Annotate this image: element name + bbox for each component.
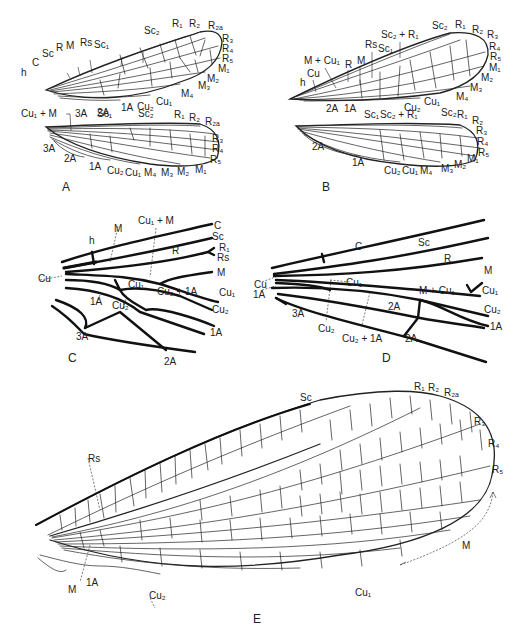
label-Sc1-hind-b: Sc₁ bbox=[364, 109, 380, 120]
label-R2-hind: R₂ bbox=[189, 112, 200, 123]
label-Cu1-hind: Cu₁ bbox=[125, 167, 142, 178]
label-M1-hind-b: M₁ bbox=[467, 153, 479, 164]
label-Cu-c: Cu bbox=[38, 273, 51, 284]
label-1A-inner-c: 1A bbox=[90, 296, 103, 307]
label-M2-b: M₂ bbox=[481, 72, 493, 83]
label-C-c: C bbox=[214, 220, 221, 231]
label-R5-b: R₅ bbox=[490, 51, 501, 62]
label-Cu1-right-d: Cu₁ bbox=[482, 285, 499, 296]
label-Sc: Sc bbox=[42, 48, 54, 59]
label-R-c: R bbox=[172, 245, 179, 256]
label-C-d: C bbox=[355, 241, 362, 252]
label-Cu1-right-c: Cu₁ bbox=[219, 287, 236, 298]
label-M-plus-Cu1-d: M + Cu₁ bbox=[419, 285, 456, 296]
label-2A-c: 2A bbox=[164, 356, 177, 367]
panel-a-forewing-labels: h C Sc R M Rs Sc₁ Sc₂ R₁ R₂ R₂ₐ R₃ R₄ R₅… bbox=[21, 18, 233, 118]
label-Cu2-hind-b: Cu₂ bbox=[384, 165, 401, 176]
label-Cu1: Cu₁ bbox=[156, 96, 173, 107]
label-M-b: M bbox=[357, 55, 365, 66]
label-Cu-b: Cu bbox=[307, 68, 320, 79]
panel-b-letter: B bbox=[322, 180, 330, 194]
label-Sc1: Sc₁ bbox=[94, 39, 110, 50]
label-Sc2-plus-R1-hind-b: Sc₂ + R₁ bbox=[380, 109, 418, 120]
label-Rs-c: Rs bbox=[217, 252, 229, 263]
label-M1: M₁ bbox=[218, 63, 230, 74]
panel-c: h M Cu₁ + M C Sc R₁ Rs R M Cu Cu₁ Cu₂ + … bbox=[38, 215, 236, 367]
panel-a-letter: A bbox=[62, 180, 70, 194]
label-M: M bbox=[66, 40, 74, 51]
label-M3-hind: M₃ bbox=[161, 167, 173, 178]
label-Cu2-right-c: Cu₂ bbox=[212, 304, 229, 315]
label-Sc2-plus-R1-b: Sc₂ + R₁ bbox=[381, 29, 419, 40]
label-h-c: h bbox=[89, 235, 95, 246]
label-Rs: Rs bbox=[80, 37, 92, 48]
label-M1-hind: M₁ bbox=[195, 164, 207, 175]
label-M4: M₄ bbox=[181, 88, 193, 99]
label-2A-bottom-d: 2A bbox=[405, 333, 418, 344]
label-2A-inner-d: 2A bbox=[388, 301, 401, 312]
panel-d: C Sc R M Cu Cu₁ M + Cu₁ Cu₁ 1A 3A 2A Cu₂… bbox=[253, 220, 503, 365]
label-2A-hind: 2A bbox=[64, 153, 77, 164]
label-R4-hind: R₄ bbox=[212, 143, 223, 154]
label-Cu2-bottom-d: Cu₂ bbox=[318, 323, 335, 334]
label-Sc1-hind: Sc₁ bbox=[97, 108, 113, 119]
label-3A-c: 3A bbox=[76, 331, 89, 342]
label-M-plus-Cu1-b: M + Cu₁ bbox=[304, 55, 341, 66]
label-M-c: M bbox=[114, 223, 122, 234]
label-M4-hind-b: M₄ bbox=[420, 165, 432, 176]
label-R: R bbox=[56, 42, 63, 53]
label-1A-hind: 1A bbox=[89, 161, 102, 172]
label-3A-d: 3A bbox=[292, 308, 305, 319]
panel-c-letter: C bbox=[68, 351, 77, 365]
label-R4-hind-b: R₄ bbox=[477, 136, 488, 147]
label-Cu1-hind-b: Cu₁ bbox=[402, 165, 419, 176]
panel-d-letter: D bbox=[382, 351, 391, 365]
label-2A-b: 2A bbox=[326, 103, 339, 114]
panel-a-hindwing-labels: Cu₁ + M 3A Sc₁ Sc₂ R₁ R₂ R₂ₐ R₃ R₄ R₅ 3A… bbox=[21, 108, 223, 178]
panel-d-labels: C Sc R M Cu Cu₁ M + Cu₁ Cu₁ 1A 3A 2A Cu₂… bbox=[253, 237, 503, 344]
label-R5-hind-b: R₅ bbox=[478, 147, 489, 158]
panel-a: h C Sc R M Rs Sc₁ Sc₂ R₁ R₂ R₂ₐ R₃ R₄ R₅… bbox=[21, 18, 233, 194]
panel-b: h Cu M + Cu₁ R M Rs Sc₁ Sc₂ + R₁ Sc₂ R₁ … bbox=[290, 19, 501, 194]
label-Cu2-e: Cu₂ bbox=[149, 590, 166, 601]
label-R-b: R bbox=[345, 59, 352, 70]
label-1A-b: 1A bbox=[344, 103, 357, 114]
label-h: h bbox=[21, 67, 27, 78]
wing-venation-figure: h C Sc R M Rs Sc₁ Sc₂ R₁ R₂ R₂ₐ R₃ R₄ R₅… bbox=[0, 0, 519, 636]
label-R1-b: R₁ bbox=[455, 19, 466, 30]
label-R1-e: R₁ bbox=[414, 381, 425, 392]
label-Cu1-inner-c: Cu₁ bbox=[128, 279, 145, 290]
label-Sc-d: Sc bbox=[418, 237, 430, 248]
label-Cu2-plus-1A-d: Cu₂ + 1A bbox=[342, 333, 383, 344]
label-Rs-b: Rs bbox=[365, 39, 377, 50]
label-1A: 1A bbox=[121, 102, 134, 113]
label-3A-top: 3A bbox=[75, 108, 88, 119]
label-Cu2-hind: Cu₂ bbox=[107, 165, 124, 176]
label-Cu1-inner-d: Cu₁ bbox=[346, 277, 363, 288]
label-R5-hind: R₅ bbox=[210, 154, 221, 165]
label-R2-b: R₂ bbox=[472, 24, 483, 35]
label-1A-e: 1A bbox=[86, 577, 99, 588]
label-R2a-e: R₂ₐ bbox=[444, 387, 459, 398]
label-C: C bbox=[32, 57, 39, 68]
label-Cu2-plus-1A-c: Cu₂ + 1A bbox=[157, 286, 198, 297]
label-1A-hind-b: 1A bbox=[352, 157, 365, 168]
label-1A-right-c: 1A bbox=[210, 327, 223, 338]
label-R-d: R bbox=[444, 253, 451, 264]
label-Rs-e: Rs bbox=[88, 453, 100, 464]
label-M-right-e: M bbox=[462, 540, 470, 551]
label-1A-left-d: 1A bbox=[253, 289, 266, 300]
label-R2a-hind: R₂ₐ bbox=[205, 116, 220, 127]
label-3A-hind: 3A bbox=[43, 143, 56, 154]
label-Sc2-hind-b: Sc₂ bbox=[441, 107, 457, 118]
label-R3-b: R₃ bbox=[487, 29, 498, 40]
label-R2: R₂ bbox=[189, 18, 200, 29]
label-Sc1-b: Sc₁ bbox=[378, 43, 394, 54]
label-h-b: h bbox=[300, 77, 306, 88]
label-M-right-c: M bbox=[217, 267, 225, 278]
label-M2-hind-b: M₂ bbox=[454, 159, 466, 170]
panel-e-letter: E bbox=[253, 612, 261, 626]
label-M2-hind: M₂ bbox=[177, 166, 189, 177]
label-R1-hind-b: R₁ bbox=[457, 109, 468, 120]
label-R2a: R₂ₐ bbox=[208, 20, 223, 31]
